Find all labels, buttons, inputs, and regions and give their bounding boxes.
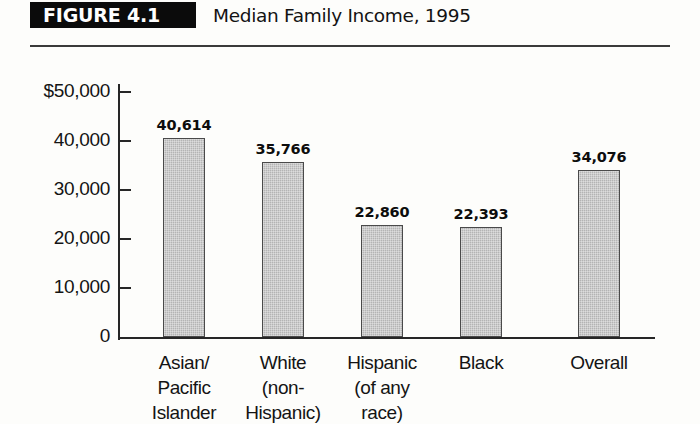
y-tick-label-0: 0 bbox=[100, 325, 110, 347]
y-tick-mark-30000 bbox=[120, 189, 131, 191]
bar-white-non-hispanic bbox=[262, 162, 304, 337]
y-tick-mark-10000 bbox=[120, 287, 131, 289]
bar-overall bbox=[578, 170, 620, 337]
y-tick-label-40000: 40,000 bbox=[54, 129, 110, 151]
y-axis-line bbox=[118, 84, 120, 340]
x-category-line: Black bbox=[416, 350, 546, 375]
y-axis-labels: $50,000 40,000 30,000 20,000 10,000 0 bbox=[0, 0, 110, 424]
bar-black bbox=[460, 227, 502, 337]
y-tick-label-10000: 10,000 bbox=[54, 276, 110, 298]
y-tick-mark-20000 bbox=[120, 238, 131, 240]
x-category-line: (of any bbox=[317, 375, 447, 400]
x-category-label-black: Black bbox=[416, 350, 546, 375]
bar-value-black: 22,393 bbox=[421, 206, 541, 222]
y-tick-mark-50000 bbox=[120, 91, 131, 93]
bar-hispanic-any-race bbox=[361, 225, 403, 337]
x-category-label-overall: Overall bbox=[534, 350, 664, 375]
y-tick-label-30000: 30,000 bbox=[54, 178, 110, 200]
x-axis-line bbox=[118, 337, 655, 339]
y-tick-label-20000: 20,000 bbox=[54, 227, 110, 249]
bar-asian-pacific-islander bbox=[163, 138, 205, 337]
x-category-line: race) bbox=[317, 400, 447, 424]
bar-chart: $50,000 40,000 30,000 20,000 10,000 0 40… bbox=[0, 0, 700, 424]
bar-value-asian-pacific-islander: 40,614 bbox=[124, 117, 244, 133]
bar-value-overall: 34,076 bbox=[539, 149, 659, 165]
x-category-line: Overall bbox=[534, 350, 664, 375]
y-tick-mark-40000 bbox=[120, 140, 131, 142]
y-tick-label-50000: $50,000 bbox=[43, 80, 110, 102]
bar-value-white-non-hispanic: 35,766 bbox=[223, 141, 343, 157]
